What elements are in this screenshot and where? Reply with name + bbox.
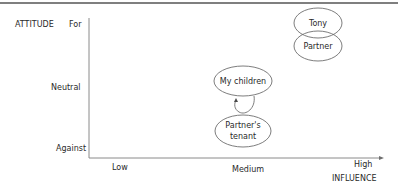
node-partners-tenant: Partner's tenant (215, 115, 271, 147)
node-partner-label: Partner (303, 42, 333, 51)
node-partners-tenant-label-line2: tenant (230, 132, 256, 141)
node-partner: Partner (294, 31, 342, 61)
x-tick-low: Low (112, 164, 128, 172)
x-axis-arrowhead-icon (379, 156, 384, 160)
arrowhead-icon (234, 98, 238, 102)
y-tick-against: Against (56, 145, 86, 153)
stakeholder-map-diagram: Tony Partner My children Partner's tenan… (0, 0, 398, 183)
y-tick-neutral: Neutral (51, 84, 81, 92)
node-partners-tenant-label-line1: Partner's (225, 121, 260, 130)
node-my-children: My children (214, 66, 272, 96)
x-tick-medium: Medium (232, 166, 264, 174)
node-tony: Tony (294, 8, 342, 38)
y-axis-title: ATTITUDE (15, 21, 54, 29)
x-tick-high: High (354, 161, 372, 169)
edge-tenant-to-children (234, 96, 254, 113)
y-tick-for: For (69, 21, 82, 29)
node-tony-label: Tony (308, 19, 327, 28)
node-my-children-label: My children (220, 77, 266, 86)
x-axis-title: INFLUENCE (332, 175, 377, 183)
